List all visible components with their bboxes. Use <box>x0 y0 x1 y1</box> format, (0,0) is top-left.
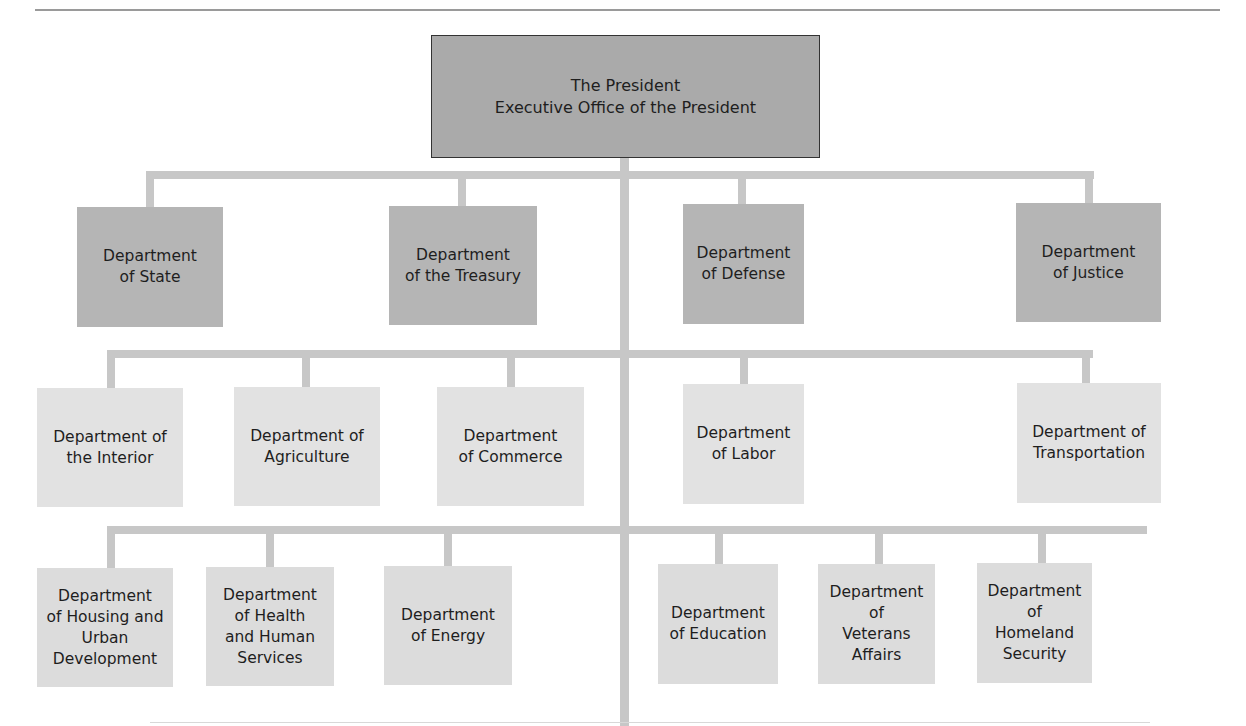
tier3-drop <box>1038 526 1046 564</box>
tier2-drop <box>740 350 748 385</box>
bottom-rule <box>150 722 1150 723</box>
tier3-drop <box>715 526 723 564</box>
department-box-health-human-services: Department of Health and Human Services <box>206 567 334 686</box>
department-box-homeland-security: Department of Homeland Security <box>977 563 1092 683</box>
president-box: The President Executive Office of the Pr… <box>431 35 820 158</box>
department-box-agriculture: Department of Agriculture <box>234 387 380 506</box>
department-box-veterans-affairs: Department of Veterans Affairs <box>818 564 935 684</box>
department-box-transportation: Department of Transportation <box>1017 383 1161 503</box>
tier2-drop <box>507 350 515 388</box>
tier2-drop <box>107 350 115 388</box>
tier2-bar <box>107 350 1093 358</box>
tier2-drop <box>302 350 310 388</box>
tier1-drop <box>458 171 466 207</box>
department-box-justice: Department of Justice <box>1016 203 1161 322</box>
department-box-defense: Department of Defense <box>683 204 804 324</box>
department-box-treasury: Department of the Treasury <box>389 206 537 325</box>
tier3-drop <box>444 526 452 566</box>
tier1-drop <box>1085 171 1093 204</box>
tier3-drop <box>107 526 115 568</box>
tier3-drop <box>875 526 883 564</box>
department-box-state: Department of State <box>77 207 223 327</box>
department-box-energy: Department of Energy <box>384 566 512 685</box>
department-box-interior: Department of the Interior <box>37 388 183 507</box>
tier1-bar <box>146 171 1094 179</box>
tier1-drop <box>146 171 154 208</box>
department-box-labor: Department of Labor <box>683 384 804 504</box>
header-rule <box>35 9 1220 11</box>
tier3-drop <box>266 526 274 568</box>
department-box-housing-urban-development: Department of Housing and Urban Developm… <box>37 568 173 687</box>
tier1-drop <box>738 171 746 205</box>
trunk-connector <box>620 157 629 726</box>
department-box-education: Department of Education <box>658 564 778 684</box>
department-box-commerce: Department of Commerce <box>437 387 584 506</box>
tier2-drop <box>1082 350 1090 384</box>
tier3-bar <box>107 526 1147 534</box>
